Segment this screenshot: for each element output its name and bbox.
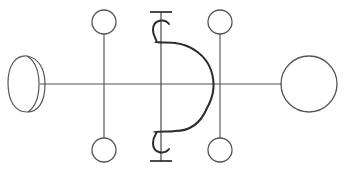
- diagram-canvas: [0, 0, 346, 173]
- left-pair-top-circle: [92, 10, 116, 34]
- large-circle-outline: [281, 56, 337, 112]
- right-pair-bottom-circle: [208, 138, 232, 162]
- crescent-moon: [8, 56, 45, 112]
- crescent-inner-arc: [27, 56, 39, 112]
- right-circle-pair: [208, 10, 232, 162]
- left-circle-pair: [92, 10, 116, 162]
- diagram-svg: [0, 0, 346, 173]
- large-right-circle: [281, 56, 337, 112]
- right-pair-top-circle: [208, 10, 232, 34]
- left-pair-bottom-circle: [92, 138, 116, 162]
- center-bowl-arc: [175, 43, 213, 131]
- center-top-hook: [153, 21, 175, 43]
- center-d-glyph: [150, 12, 213, 161]
- center-bottom-hook: [153, 131, 175, 152]
